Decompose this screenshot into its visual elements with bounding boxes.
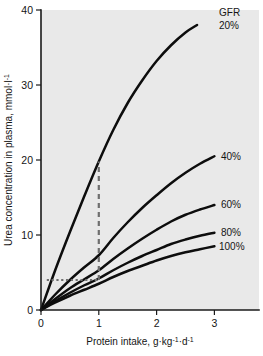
x-tick-label-2: 2 [154,317,160,329]
chart-figure: 0 10 20 30 40 0 1 2 3 Protein intake, g·… [0,0,263,356]
x-tick-label-0: 0 [38,317,44,329]
y-tick-label-20: 20 [21,154,33,166]
x-axis-title-d-exp: -1 [188,336,194,343]
y-tick-labels: 0 10 20 30 40 [21,4,33,316]
series-label-gfr-60: 60% [221,199,241,210]
y-tick-label-30: 30 [21,79,33,91]
y-axis-title-main: Urea concentration in plasma, mmol [3,86,14,246]
y-axis-title: Urea concentration in plasma, mmol·l-1 [3,74,15,246]
y-tick-label-40: 40 [21,4,33,16]
x-axis-title-d: ·d [179,336,188,347]
y-tick-label-0: 0 [27,304,33,316]
x-axis-title: Protein intake, g·kg-1·d-1 [86,336,194,348]
x-tick-label-1: 1 [96,317,102,329]
series-label-gfr-80: 80% [221,227,241,238]
x-axis-title-main: Protein intake, g [86,336,158,347]
series-label-gfr-40: 40% [221,151,241,162]
legend-title: GFR [219,7,240,18]
urea-vs-protein-intake-chart: 0 10 20 30 40 0 1 2 3 Protein intake, g·… [0,0,263,356]
x-tick-label-3: 3 [211,317,217,329]
x-axis-title-kg: ·kg [158,336,172,347]
y-tick-label-10: 10 [21,229,33,241]
y-axis-title-l-exp: -1 [3,74,10,80]
x-tick-labels: 0 1 2 3 [38,317,217,329]
series-label-gfr-100: 100% [219,241,245,252]
series-label-gfr-20: 20% [219,20,239,31]
